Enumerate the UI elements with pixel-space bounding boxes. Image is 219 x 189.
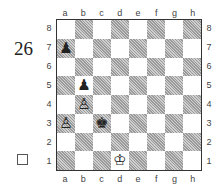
file-label-a: a [56,174,74,184]
square-f7[interactable] [147,39,165,58]
square-d7[interactable] [111,39,129,58]
square-h5[interactable] [183,76,201,95]
square-f6[interactable] [147,58,165,77]
square-a6[interactable] [57,58,75,77]
file-label-d: d [111,174,129,184]
file-label-f: f [147,174,165,184]
square-d6[interactable] [111,58,129,77]
square-h3[interactable] [183,114,201,133]
square-b4[interactable]: ♙ [75,95,93,114]
square-h4[interactable] [183,95,201,114]
square-b8[interactable] [75,20,93,39]
square-b2[interactable] [75,133,93,152]
square-d3[interactable] [111,114,129,133]
rank-label-2: 2 [44,137,54,147]
rank-label-3: 3 [204,118,214,128]
square-g8[interactable] [165,20,183,39]
file-label-h: h [184,8,202,18]
rank-label-7: 7 [204,42,214,52]
rank-label-3: 3 [44,118,54,128]
square-g2[interactable] [165,133,183,152]
square-d2[interactable] [111,133,129,152]
square-a5[interactable] [57,76,75,95]
square-h7[interactable] [183,39,201,58]
rank-label-5: 5 [44,80,54,90]
square-e5[interactable] [129,76,147,95]
square-g5[interactable] [165,76,183,95]
rank-label-4: 4 [44,99,54,109]
square-b5[interactable]: ♟ [75,76,93,95]
square-a7[interactable]: ♟ [57,39,75,58]
white-pawn-icon[interactable]: ♙ [59,116,72,131]
file-label-g: g [166,8,184,18]
square-f4[interactable] [147,95,165,114]
square-e4[interactable] [129,95,147,114]
square-a2[interactable] [57,133,75,152]
file-label-a: a [56,8,74,18]
square-a1[interactable] [57,151,75,170]
square-e3[interactable] [129,114,147,133]
square-e8[interactable] [129,20,147,39]
file-label-c: c [93,8,111,18]
square-c8[interactable] [93,20,111,39]
square-c7[interactable] [93,39,111,58]
file-label-h: h [184,174,202,184]
square-b6[interactable] [75,58,93,77]
rank-label-1: 1 [44,156,54,166]
rank-label-7: 7 [44,42,54,52]
square-h8[interactable] [183,20,201,39]
rank-label-5: 5 [204,80,214,90]
rank-label-8: 8 [44,23,54,33]
rank-label-2: 2 [204,137,214,147]
square-g4[interactable] [165,95,183,114]
square-a3[interactable]: ♙ [57,114,75,133]
square-a8[interactable] [57,20,75,39]
square-d4[interactable] [111,95,129,114]
square-b3[interactable] [75,114,93,133]
square-e7[interactable] [129,39,147,58]
square-e1[interactable] [129,151,147,170]
black-king-icon[interactable]: ♚ [95,116,108,131]
square-c5[interactable] [93,76,111,95]
square-h6[interactable] [183,58,201,77]
square-c6[interactable] [93,58,111,77]
square-g7[interactable] [165,39,183,58]
square-f5[interactable] [147,76,165,95]
file-label-d: d [111,8,129,18]
diagram-number: 26 [14,38,33,60]
rank-label-4: 4 [204,99,214,109]
white-king-icon[interactable]: ♔ [113,153,126,168]
square-h2[interactable] [183,133,201,152]
square-e6[interactable] [129,58,147,77]
square-b1[interactable] [75,151,93,170]
square-d5[interactable] [111,76,129,95]
square-c2[interactable] [93,133,111,152]
white-pawn-icon[interactable]: ♙ [77,97,90,112]
rank-label-1: 1 [204,156,214,166]
file-label-f: f [147,8,165,18]
square-c1[interactable] [93,151,111,170]
square-c3[interactable]: ♚ [93,114,111,133]
black-pawn-icon[interactable]: ♟ [59,41,72,56]
file-label-b: b [74,174,92,184]
square-f2[interactable] [147,133,165,152]
square-g3[interactable] [165,114,183,133]
square-f3[interactable] [147,114,165,133]
file-label-g: g [166,174,184,184]
black-pawn-icon[interactable]: ♟ [77,78,90,93]
square-g6[interactable] [165,58,183,77]
square-a4[interactable] [57,95,75,114]
file-label-b: b [74,8,92,18]
square-c4[interactable] [93,95,111,114]
square-h1[interactable] [183,151,201,170]
square-d1[interactable]: ♔ [111,151,129,170]
square-f1[interactable] [147,151,165,170]
file-label-e: e [129,8,147,18]
rank-label-6: 6 [204,61,214,71]
square-g1[interactable] [165,151,183,170]
square-e2[interactable] [129,133,147,152]
square-d8[interactable] [111,20,129,39]
square-b7[interactable] [75,39,93,58]
file-label-c: c [93,174,111,184]
square-f8[interactable] [147,20,165,39]
